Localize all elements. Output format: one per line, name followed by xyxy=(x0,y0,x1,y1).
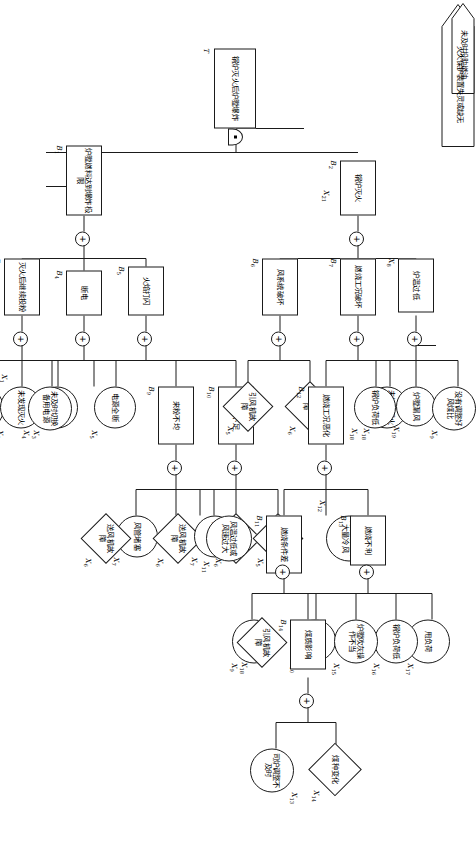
gate-or-B9[interactable]: + xyxy=(167,460,182,475)
and-gate-dot xyxy=(234,135,237,138)
node-B2-label: B2 xyxy=(328,160,337,168)
node-X4-text: 未及时切换备用电源 xyxy=(42,388,58,428)
node-B10-label: B10 xyxy=(206,386,215,398)
node-X13-text: 司炉调整不及时 xyxy=(264,750,280,790)
node-B13[interactable]: 燃烧不利 xyxy=(350,515,386,565)
node-X8-text: 炉温过低 xyxy=(412,271,420,300)
gate-or-B13[interactable]: + xyxy=(359,564,374,579)
node-X17-text: 甩负荷 xyxy=(424,630,432,652)
node-B5-text: 火焰打闪 xyxy=(142,276,150,305)
gate-or-B12[interactable]: + xyxy=(317,460,332,475)
node-X5c-label: X5 xyxy=(225,426,234,434)
node-X14-label: X14 xyxy=(311,790,320,802)
node-B6-text: 风系统破坏 xyxy=(276,269,284,305)
node-X6a-text: 送风机故障 xyxy=(170,522,186,554)
node-X16-label: X16 xyxy=(371,663,380,675)
node-X18b-text: 引风机故障 xyxy=(254,626,270,658)
gate-or-B11[interactable]: + xyxy=(275,564,290,579)
gate-or-B4[interactable]: + xyxy=(75,331,90,346)
node-B2-text: 锅炉灭火 xyxy=(354,173,362,202)
node-X7b-label: X7 xyxy=(189,557,198,565)
node-X16[interactable]: 锅炉负荷低 xyxy=(374,619,418,663)
node-X6c-label: X6 xyxy=(287,426,296,434)
node-X11-label: X11 xyxy=(201,561,210,573)
node-X7a-text: 风管堵塞 xyxy=(133,522,141,551)
node-X6d-label: X6 xyxy=(83,558,92,566)
node-B12-label: B12 xyxy=(296,386,305,398)
gate-or-B6[interactable]: + xyxy=(271,331,286,346)
node-X9a-label: X9 xyxy=(429,430,438,438)
node-B9-label: B9 xyxy=(146,386,155,394)
node-T-text: 锅炉灭火后炉膛爆炸 xyxy=(231,56,239,121)
node-X9a[interactable]: 没有调整好风煤比 xyxy=(432,386,476,430)
node-X19-text: 炉膛漏风 xyxy=(412,392,420,421)
node-X19-label: X19 xyxy=(391,426,400,438)
node-B14[interactable]: 煤质影响 xyxy=(290,619,326,669)
gate-or-B5[interactable]: + xyxy=(137,331,152,346)
node-B9-text: 来粉不均 xyxy=(172,401,180,430)
gate-or-B10[interactable]: + xyxy=(227,460,242,475)
node-B12[interactable]: 燃烧工况恶化 xyxy=(308,386,344,444)
node-B5[interactable]: 火焰打闪 xyxy=(128,266,164,315)
node-X21-label: X21 xyxy=(321,190,330,202)
node-X4[interactable]: 未及时切换备用电源 xyxy=(28,386,72,430)
node-X5a[interactable]: 电源全断 xyxy=(94,386,136,428)
node-X2-label: X2 xyxy=(0,430,4,438)
node-B4[interactable]: 断电 xyxy=(66,270,102,315)
node-B11-text: 燃烧条件差 xyxy=(280,526,288,562)
node-X15-text: 炉膛吹灰操作不当 xyxy=(348,621,364,661)
node-X8-label: X8 xyxy=(386,258,395,266)
node-X13-label: X13 xyxy=(289,792,298,804)
node-X6a-label: X6 xyxy=(155,558,164,566)
node-B7-label: B7 xyxy=(328,258,337,266)
gate-or-B14[interactable]: + xyxy=(299,693,314,708)
node-B2[interactable]: 锅炉灭火 xyxy=(340,160,376,215)
gate-or-X8[interactable]: + xyxy=(407,331,422,346)
node-B1[interactable]: 炉膛燃料达到爆炸极限 xyxy=(66,145,102,215)
fault-tree-sheet: 锅炉灭火后炉膛爆炸 T 灭火保护装置失灵或缺无 X21 锅炉灭火 B2 + 炉膛… xyxy=(0,0,476,841)
node-X18c[interactable]: 锅炉负荷低 xyxy=(354,386,396,428)
node-B3-label: B3 xyxy=(0,258,1,266)
node-B5-label: B5 xyxy=(116,266,125,274)
node-X2-text: 未发现灭火 xyxy=(17,389,25,425)
node-X11[interactable]: 风温过低或风速过大 xyxy=(206,515,252,561)
node-B6[interactable]: 风系统破坏 xyxy=(262,258,298,315)
figure-page: 锅炉灭火后炉膛爆炸 T 灭火保护装置失灵或缺无 X21 锅炉灭火 B2 + 炉膛… xyxy=(0,0,476,841)
node-B14-label: B14 xyxy=(278,619,287,631)
node-X1-label: X1 xyxy=(0,374,8,382)
node-X13[interactable]: 司炉调整不及时 xyxy=(250,748,294,792)
node-B3[interactable]: 灭火后继续投粉 xyxy=(4,258,40,315)
node-X16-text: 锅炉负荷低 xyxy=(392,623,400,659)
node-B13-label: B13 xyxy=(338,515,347,527)
node-X17-label: X17 xyxy=(405,663,414,675)
node-B4-label: B4 xyxy=(54,270,63,278)
node-B7[interactable]: 燃烧工况破坏 xyxy=(340,258,376,315)
node-B4-text: 断电 xyxy=(80,285,88,299)
node-X5a-label: X5 xyxy=(89,430,98,438)
node-B9[interactable]: 来粉不均 xyxy=(158,386,194,444)
node-X18c-text: 锅炉负荷低 xyxy=(371,389,379,425)
node-X19[interactable]: 炉膛漏风 xyxy=(396,386,436,426)
gate-or-B2[interactable]: + xyxy=(349,231,364,246)
node-B1-label: B1 xyxy=(54,145,63,153)
node-X15-label: X15 xyxy=(331,663,340,675)
node-X20-text: 未及时投助燃油 xyxy=(460,18,470,90)
node-X9b-label: X9 xyxy=(229,663,238,671)
node-X4-label: X4 xyxy=(21,430,30,438)
gate-or-B1[interactable]: + xyxy=(75,231,90,246)
gate-or-B7[interactable]: + xyxy=(349,331,364,346)
node-X12-label: X12 xyxy=(317,500,326,512)
node-X15[interactable]: 炉膛吹灰操作不当 xyxy=(334,619,378,663)
node-X14-text: 煤种变化 xyxy=(331,755,339,784)
node-X7a-label: X7 xyxy=(111,557,120,565)
node-B12-text: 燃烧工况恶化 xyxy=(322,393,330,436)
node-X18c-label: X18 xyxy=(349,428,358,440)
node-B7-text: 燃烧工况破坏 xyxy=(354,265,362,308)
node-T[interactable]: 锅炉灭火后炉膛爆炸 xyxy=(214,48,256,128)
gate-or-B3[interactable]: + xyxy=(13,331,28,346)
fault-tree-canvas: 锅炉灭火后炉膛爆炸 T 灭火保护装置失灵或缺无 X21 锅炉灭火 B2 + 炉膛… xyxy=(0,0,476,841)
node-X3-label: X3 xyxy=(31,430,40,438)
node-X9a-text: 没有调整好风煤比 xyxy=(446,388,462,428)
node-B14-text: 煤质影响 xyxy=(304,630,312,659)
node-X8[interactable]: 炉温过低 xyxy=(398,258,434,312)
